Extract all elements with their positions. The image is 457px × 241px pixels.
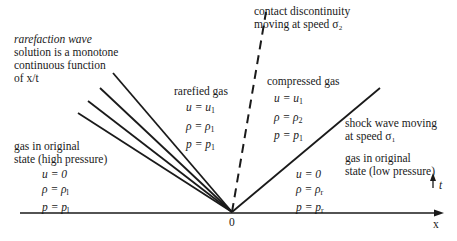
compressed-gas-title: compressed gas — [267, 75, 340, 88]
shock-annotation: shock wave moving at speed σ₁ — [345, 117, 437, 143]
rarefaction-title: rarefaction wave — [14, 33, 118, 46]
contact-annotation: contact discontinuity moving at speed σ₂ — [254, 5, 350, 31]
contact-line2: moving at speed σ₂ — [254, 18, 350, 31]
rarefied-gas-state: u = u1 ρ = ρ1 p = p1 — [186, 100, 215, 156]
left-original-state: u = 0 ρ = ρl p = pl — [42, 167, 69, 219]
rarefaction-annotation: rarefaction wave solution is a monotone … — [14, 33, 118, 85]
contact-line1: contact discontinuity — [254, 5, 350, 18]
shock-line2: at speed σ₁ — [345, 130, 437, 143]
right-original-state: u = 0 ρ = ρr p = pr — [296, 167, 324, 219]
compressed-gas-state: u = u1 ρ = ρ2 p = p1 — [274, 91, 303, 147]
shock-line1: shock wave moving — [345, 117, 437, 130]
rarefied-gas-title: rarefied gas — [174, 85, 228, 98]
rarefaction-line2: continuous function — [14, 59, 118, 72]
left-original-title: gas in original state (high pressure) — [14, 140, 107, 166]
origin-label: 0 — [229, 216, 235, 229]
x-axis-label: x — [433, 218, 439, 231]
contact-discontinuity-line — [232, 12, 266, 212]
x-axis-arrow-icon — [434, 210, 444, 217]
rarefaction-line3: of x/t — [14, 72, 118, 85]
rarefaction-line1: solution is a monotone — [14, 46, 118, 59]
t-axis-label: t — [439, 179, 442, 192]
right-original-title: gas in original state (low pressure) — [345, 152, 435, 178]
